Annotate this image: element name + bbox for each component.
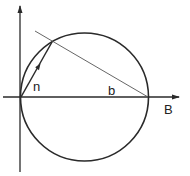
label-B: B: [164, 102, 173, 117]
chord-line: [35, 31, 148, 97]
label-n: n: [33, 79, 40, 94]
circle-vector-diagram: n b B: [0, 0, 190, 176]
label-b: b: [108, 83, 115, 98]
